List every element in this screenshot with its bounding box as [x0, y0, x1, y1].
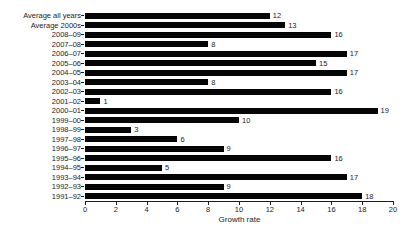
bar-area: 10	[85, 116, 393, 126]
y-tick-mark	[81, 34, 84, 35]
bar-area: 16	[85, 87, 393, 97]
value-label: 17	[350, 174, 358, 182]
bar-area: 15	[85, 59, 393, 69]
chart-row: 1996–979	[0, 144, 415, 154]
bar-area: 18	[85, 192, 393, 202]
chart-row: Average 2000s13	[0, 21, 415, 31]
y-tick-mark	[81, 82, 84, 83]
bar	[85, 70, 347, 76]
y-tick-mark	[81, 44, 84, 45]
category-label: 1995–96	[0, 155, 81, 163]
category-label: 2005–06	[0, 60, 81, 68]
bar	[85, 146, 224, 152]
value-label: 10	[242, 117, 250, 125]
y-tick-mark	[81, 25, 84, 26]
chart-row: 2000–0119	[0, 106, 415, 116]
category-label: 2007–08	[0, 41, 81, 49]
x-tick-label: 14	[296, 206, 304, 214]
value-label: 9	[227, 183, 231, 191]
y-tick-mark	[81, 186, 84, 187]
y-tick-mark	[81, 177, 84, 178]
category-label: 1992–93	[0, 183, 81, 191]
category-label: 1991–92	[0, 193, 81, 201]
bar-area: 16	[85, 154, 393, 164]
bar-area: 1	[85, 97, 393, 107]
y-tick-mark	[81, 158, 84, 159]
value-label: 8	[211, 41, 215, 49]
value-label: 5	[165, 164, 169, 172]
y-tick-mark	[81, 101, 84, 102]
bar	[85, 60, 316, 66]
chart-row: 2001–021	[0, 97, 415, 107]
value-label: 16	[334, 155, 342, 163]
value-label: 8	[211, 79, 215, 87]
bar	[85, 117, 239, 123]
bar-area: 17	[85, 173, 393, 183]
bar-rows: Average all years12Average 2000s132008–0…	[0, 11, 415, 201]
bar	[85, 165, 162, 171]
x-tick-label: 20	[389, 206, 397, 214]
chart-row: 1992–939	[0, 182, 415, 192]
x-tick-label: 2	[114, 206, 118, 214]
bar	[85, 79, 208, 85]
bar-area: 8	[85, 78, 393, 88]
category-label: Average 2000s	[0, 22, 81, 30]
chart-row: 1993–9417	[0, 173, 415, 183]
bar-area: 16	[85, 30, 393, 40]
bar	[85, 41, 208, 47]
value-label: 9	[227, 145, 231, 153]
x-tick-label: 8	[206, 206, 210, 214]
value-label: 17	[350, 50, 358, 58]
y-tick-mark	[81, 15, 84, 16]
x-tick-label: 0	[83, 206, 87, 214]
chart-row: 2004–0517	[0, 68, 415, 78]
x-tick-label: 10	[235, 206, 243, 214]
category-label: 2006–07	[0, 50, 81, 58]
value-label: 3	[134, 126, 138, 134]
growth-rate-bar-chart: Average all years12Average 2000s132008–0…	[0, 0, 415, 229]
y-tick-mark	[81, 148, 84, 149]
y-tick-mark	[81, 129, 84, 130]
bar-area: 17	[85, 68, 393, 78]
bar-area: 17	[85, 49, 393, 59]
value-label: 17	[350, 69, 358, 77]
chart-row: 2008–0916	[0, 30, 415, 40]
category-label: 2003–04	[0, 79, 81, 87]
chart-row: 1995–9616	[0, 154, 415, 164]
y-tick-mark	[81, 110, 84, 111]
bar	[85, 51, 347, 57]
chart-row: 2003–048	[0, 78, 415, 88]
x-tick-label: 4	[145, 206, 149, 214]
x-tick-label: 16	[327, 206, 335, 214]
y-tick-mark	[81, 91, 84, 92]
bar	[85, 136, 177, 142]
bar-area: 9	[85, 144, 393, 154]
bar	[85, 127, 131, 133]
bar	[85, 108, 378, 114]
value-label: 1	[103, 98, 107, 106]
value-label: 16	[334, 31, 342, 39]
x-tick-label: 18	[358, 206, 366, 214]
chart-row: 1997–986	[0, 135, 415, 145]
bar	[85, 32, 331, 38]
bar	[85, 193, 362, 199]
chart-row: 2005–0615	[0, 59, 415, 69]
bar-area: 12	[85, 11, 393, 21]
bar	[85, 174, 347, 180]
value-label: 15	[319, 60, 327, 68]
bar-area: 5	[85, 163, 393, 173]
chart-row: 2006–0717	[0, 49, 415, 59]
category-label: 1994–95	[0, 164, 81, 172]
y-tick-mark	[81, 63, 84, 64]
chart-row: 1994–955	[0, 163, 415, 173]
y-tick-mark	[81, 53, 84, 54]
bar	[85, 22, 285, 28]
value-label: 13	[288, 22, 296, 30]
x-tick-label: 6	[175, 206, 179, 214]
chart-row: 1999–0010	[0, 116, 415, 126]
category-label: 2001–02	[0, 98, 81, 106]
category-label: 2004–05	[0, 69, 81, 77]
bar-area: 6	[85, 135, 393, 145]
category-label: 2002–03	[0, 88, 81, 96]
bar	[85, 184, 224, 190]
